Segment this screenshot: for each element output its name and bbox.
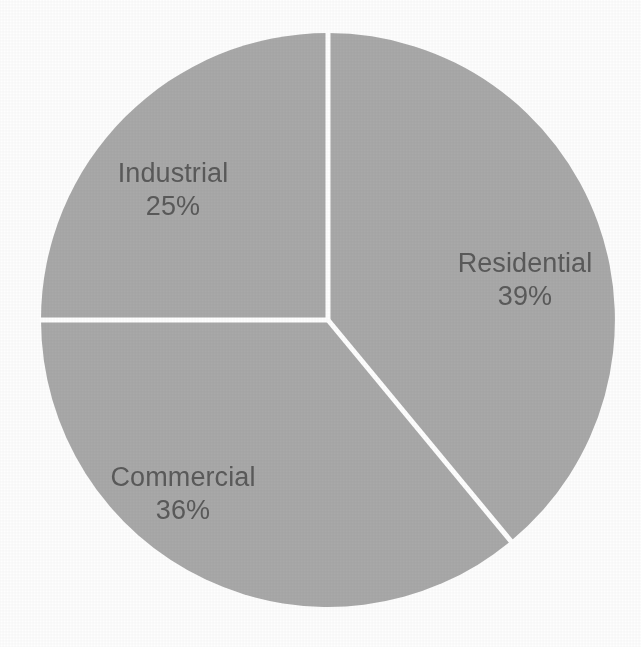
pie-label-industrial: Industrial 25% bbox=[57, 157, 289, 223]
pie-label-industrial-value: 25% bbox=[57, 190, 289, 223]
pie-label-residential: Residential 39% bbox=[410, 247, 640, 313]
pie-chart-figure: Industrial 25% Residential 39% Commercia… bbox=[0, 0, 641, 647]
pie-label-industrial-name: Industrial bbox=[57, 157, 289, 190]
pie-label-commercial: Commercial 36% bbox=[66, 461, 300, 527]
pie-label-residential-value: 39% bbox=[410, 280, 640, 313]
pie-label-commercial-value: 36% bbox=[66, 494, 300, 527]
pie-chart-canvas bbox=[0, 0, 641, 647]
pie-label-commercial-name: Commercial bbox=[66, 461, 300, 494]
pie-label-residential-name: Residential bbox=[410, 247, 640, 280]
